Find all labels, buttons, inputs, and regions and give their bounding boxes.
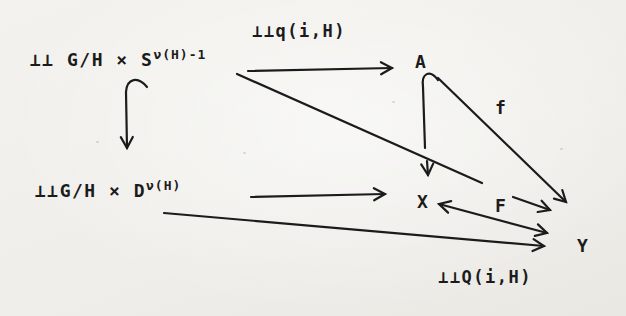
node-coproduct-disk-exponent: ν(H): [146, 178, 181, 193]
diagram-arrows: [0, 0, 626, 316]
label-q-map: ⊥⊥q(i,H): [252, 21, 346, 41]
arrow-x-y-double: [439, 204, 547, 233]
node-coproduct-sphere-base: ⊥⊥ G/H × S: [30, 49, 153, 70]
label-f-map: f: [495, 97, 507, 118]
arrow-a-inclusion-head: [427, 161, 428, 175]
node-coproduct-disk-base: ⊥⊥G/H × D: [35, 180, 146, 201]
arrow-left-inclusion-hook: [126, 80, 147, 148]
label-Q-map: ⊥⊥Q(i,H): [438, 267, 532, 287]
scan-speck: [243, 152, 246, 154]
node-A: A: [415, 51, 427, 72]
scanned-diagram-page: ⊥⊥ G/H × Sν(H)-1 ⊥⊥q(i,H) A f ⊥⊥G/H × Dν…: [0, 0, 626, 316]
node-coproduct-sphere-exponent: ν(H)-1: [153, 47, 206, 62]
node-coproduct-disk: ⊥⊥G/H × Dν(H): [35, 180, 181, 201]
node-coproduct-sphere: ⊥⊥ G/H × Sν(H)-1: [30, 49, 206, 70]
arrow-s-to-y-segment2: [513, 197, 550, 210]
arrow-a-inclusion-hook: [423, 74, 438, 148]
node-X: X: [417, 191, 429, 212]
scan-speck: [96, 141, 99, 143]
label-F-map: F: [495, 195, 507, 216]
node-Y: Y: [577, 235, 589, 256]
scan-speck: [392, 101, 395, 103]
arrow-q-horizontal: [248, 68, 392, 71]
arrow-s-to-y-segment1: [237, 74, 482, 183]
arrow-d-to-x: [251, 194, 385, 197]
scan-speck: [560, 148, 563, 150]
